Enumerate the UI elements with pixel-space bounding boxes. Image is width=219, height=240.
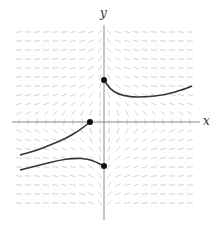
slope-segment [44,129,49,133]
slope-segment [61,94,67,96]
slope-segment [108,164,111,169]
slope-segment [70,203,76,204]
slope-segment [187,103,193,105]
slope-segment [107,174,110,179]
slope-segment [134,129,138,134]
slope-segment [125,138,129,142]
slope-segment [124,166,130,168]
slope-segment [99,101,100,107]
slope-segment [16,139,22,141]
slope-segment [88,58,93,61]
slope-segment [151,50,157,51]
slope-segment [142,185,148,186]
slope-segment [178,158,184,159]
slope-segment [142,175,148,176]
slope-segment [25,111,30,114]
slope-segment [43,176,49,177]
slope-segment [43,85,49,86]
slope-segment [160,50,166,51]
slope-segment [124,40,130,41]
slope-segment [124,202,130,203]
slope-segment [16,148,22,149]
slope-segment [70,184,76,185]
slope-segment [16,103,22,105]
slope-segment [133,148,138,151]
slope-segment [70,58,76,59]
slope-segment [61,203,67,204]
slope-segment [124,193,130,194]
slope-segment [34,77,40,78]
slope-segment [43,157,49,158]
slope-segment [187,112,192,115]
slope-segment [126,110,129,115]
slope-segment [25,68,31,69]
slope-segment [178,130,183,133]
slope-segment [16,68,22,69]
slope-segment [71,111,74,116]
slope-segment [61,103,66,106]
slope-segment [53,129,57,133]
slope-segment [79,49,85,50]
slope-segment [151,139,156,141]
slope-segment [115,40,121,42]
slope-segment [142,85,148,87]
slope-segment [52,166,58,167]
slope-segment [133,175,139,176]
slope-segment [79,202,85,203]
slope-segment [99,92,101,98]
slope-segment [133,67,139,68]
slope-segment [142,32,148,33]
slope-segment [115,175,120,178]
slope-segment [107,39,111,43]
slope-segment [160,103,166,105]
slope-segment [99,74,101,79]
slope-segment [133,193,139,194]
slope-segment [52,41,58,42]
slope-segment [133,49,139,50]
slope-segment [151,166,157,167]
slope-segment [70,76,76,78]
slope-segment [61,59,67,60]
slope-segment [108,137,109,143]
slope-segment [160,157,166,158]
slope-segment [25,103,31,105]
slope-segment [187,139,193,141]
slope-segment [90,110,92,116]
slope-segment [98,39,102,44]
slope-segment [161,111,166,115]
slope-segment [142,59,148,60]
slope-segment [107,201,111,205]
slope-segment [62,111,66,115]
slope-segment [151,157,157,158]
slope-segment [61,76,67,77]
slope-segment [133,76,139,78]
slope-segment [160,68,166,69]
slope-segment [99,137,100,143]
slope-segment [52,194,58,195]
slope-segment [169,129,174,132]
slope-segment [126,128,129,133]
slope-segment [79,166,85,168]
slope-segment [99,173,102,178]
slope-segment [52,76,58,77]
slope-segment [16,86,22,87]
slope-segment [133,41,139,42]
slope-segment [34,185,40,186]
slope-segment [124,58,130,60]
slope-segment [169,158,175,159]
slope-segment [25,94,31,95]
slope-segment [134,138,139,141]
slope-segment [160,176,166,177]
slope-segment [142,148,148,150]
slope-segment [80,93,85,96]
slope-segment [169,86,175,87]
slope-segment [90,128,92,134]
slope-segment [70,85,76,87]
slope-segment [70,32,76,33]
slope-segment [16,176,22,177]
slope-segment [116,137,119,142]
slope-segment [25,176,31,177]
slope-segment [142,67,148,68]
upper-left-solution-curve [20,122,90,155]
slope-segment [124,147,129,150]
